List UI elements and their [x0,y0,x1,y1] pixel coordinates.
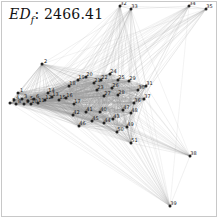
graph-node [58,99,61,102]
graph-node [23,103,26,106]
graph-node [21,98,24,101]
graph-node [117,79,120,82]
graph-node [130,8,133,11]
graph-node [44,99,47,102]
graph-node [47,92,50,95]
graph-node [73,103,76,106]
metric-name: ED [9,6,31,22]
graph-node [85,111,88,114]
graph-node [205,8,208,11]
graph-node [128,80,131,83]
graph-edge [123,110,190,156]
graph-node [15,103,18,106]
graph-node [111,87,114,90]
graph-node [169,205,172,208]
graph-node [103,122,106,125]
graph-node [99,111,102,114]
graph-node [9,102,12,105]
graph-node [93,82,96,85]
graph-node [30,103,33,106]
metric-separator: : [34,6,44,22]
graph-figure-panel: EDf: 2466.41 123456789101112131415161718… [0,0,218,218]
graph-node [27,100,30,103]
graph-node [188,5,191,8]
graph-node [133,102,136,105]
graph-node [96,89,99,92]
graph-node [17,92,20,95]
graph-node [37,102,40,105]
graph-node [122,109,125,112]
graph-node [126,126,129,129]
graph-node [33,98,36,101]
graph-node [72,114,75,117]
graph-node [103,95,106,98]
graph-node [143,98,146,101]
graph-edge [134,103,190,156]
graph-node [145,85,148,88]
graph-node [91,120,94,123]
graph-node [119,5,122,8]
graph-node [85,76,88,79]
graph-node [117,94,120,97]
graph-edge [131,6,189,9]
graph-node [137,89,140,92]
graph-edges-and-nodes [0,0,218,218]
metric-value: 2466.41 [44,6,103,22]
graph-edge [131,9,138,90]
edge-layer [10,6,206,206]
graph-node [68,85,71,88]
graph-node [51,96,54,99]
graph-node [109,73,112,76]
graph-edge [131,143,170,206]
graph-node [130,142,133,145]
graph-node [13,99,16,102]
graph-node [41,63,44,66]
graph-edge [100,112,170,206]
graph-node [78,125,81,128]
graph-edge [73,115,131,143]
graph-edge [170,156,190,206]
graph-node [130,112,133,115]
graph-node [65,97,68,100]
graph-node [100,79,103,82]
graph-node [112,118,115,121]
graph-edge [97,6,189,90]
graph-node [189,155,192,158]
graph-node [77,79,80,82]
graph-edge [127,127,170,206]
plot-title: EDf: 2466.41 [9,6,103,25]
graph-node [116,131,119,134]
